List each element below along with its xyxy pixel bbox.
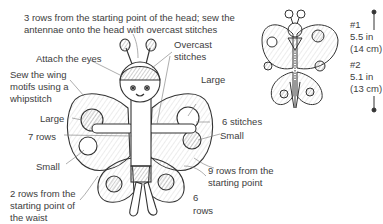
label-head-note-2: antennae onto the head with overcast sti… [24,24,217,36]
dimension-bar [372,10,376,112]
size2-inches: 5.1 in [350,71,373,83]
antenna-left-tip [120,39,130,51]
label-waist-2: starting point of [10,200,75,212]
antenna-right-tip [146,39,156,51]
size1-label: #1 [350,19,361,31]
size2-cm: (13 cm) [350,83,382,95]
size2-label: #2 [350,59,361,71]
main-butterfly [67,39,212,216]
size1-inches: 5.5 in [350,31,373,43]
right-arm [148,124,196,133]
label-seven-rows: 7 rows [28,131,56,143]
label-nine-rows-2: starting point [208,177,262,189]
label-nine-rows-1: 9 rows from the [208,165,273,177]
spot-lower-right [158,174,174,190]
label-sew-wing-2: motifs using a [10,81,69,93]
label-overcast-1: Overcast [174,39,212,51]
size1-cm: (14 cm) [350,43,382,55]
size-reference-butterfly [262,10,338,108]
spot-lower-left [106,176,122,192]
label-sew-wing-1: Sew the wing [10,69,67,81]
label-sew-wing-3: whipstitch [10,93,52,105]
label-large-right: Large [201,74,225,86]
label-attach-eyes: Attach the eyes [36,53,101,65]
label-six-stitches: 6 stitches [222,116,262,128]
label-small-left: Small [36,161,60,173]
label-six-rows-2: rows [193,205,213,217]
label-six-rows-1: 6 [193,192,198,204]
label-head-note-1: 3 rows from the starting point of the he… [24,12,235,24]
left-arm [92,124,134,133]
label-large-left: Large [40,113,64,125]
label-small-right: Small [220,130,244,142]
body [131,94,151,166]
label-waist-1: 2 rows from the [10,188,75,200]
label-overcast-2: stitches [174,51,206,63]
waist [131,166,151,182]
label-waist-3: the waist [10,212,48,224]
